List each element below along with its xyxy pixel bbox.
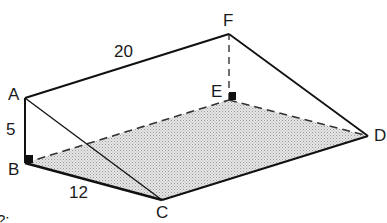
vertex-label-a: A: [8, 86, 19, 103]
vertex-label-f: F: [223, 12, 233, 29]
wedge-figure: [0, 0, 387, 223]
right-angle-mark-e: [229, 92, 236, 100]
vertex-label-d: D: [374, 127, 386, 144]
vertex-label-e: E: [211, 83, 222, 100]
vertex-label-b: B: [8, 161, 19, 178]
measure-bc: 12: [69, 184, 88, 201]
right-angle-mark-b: [25, 155, 33, 163]
measure-af: 20: [114, 43, 133, 60]
partial-text: ?:: [0, 212, 10, 223]
measure-ab: 5: [6, 121, 15, 138]
vertex-label-c: C: [156, 204, 168, 221]
